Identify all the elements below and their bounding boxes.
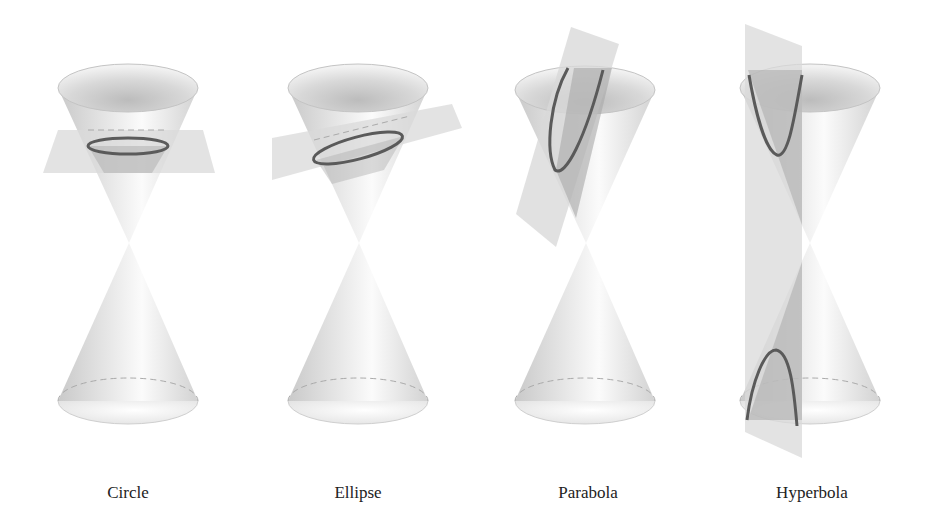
lower-nappe [288,243,428,401]
upper-rim [58,64,198,112]
label-parabola: Parabola [518,483,658,503]
label-ellipse: Ellipse [288,483,428,503]
bottom-rim [288,401,428,424]
label-circle: Circle [58,483,198,503]
parabola-panel [515,27,655,424]
ellipse-panel [272,64,462,424]
upper-rim [288,64,428,112]
conic-sections-diagram [0,0,928,518]
hyperbola-panel [740,24,880,458]
lower-nappe [515,243,655,401]
bottom-rim [58,401,198,424]
lower-nappe [58,243,198,401]
circle-panel [43,64,215,424]
label-hyperbola: Hyperbola [742,483,882,503]
bottom-rim [515,401,655,424]
